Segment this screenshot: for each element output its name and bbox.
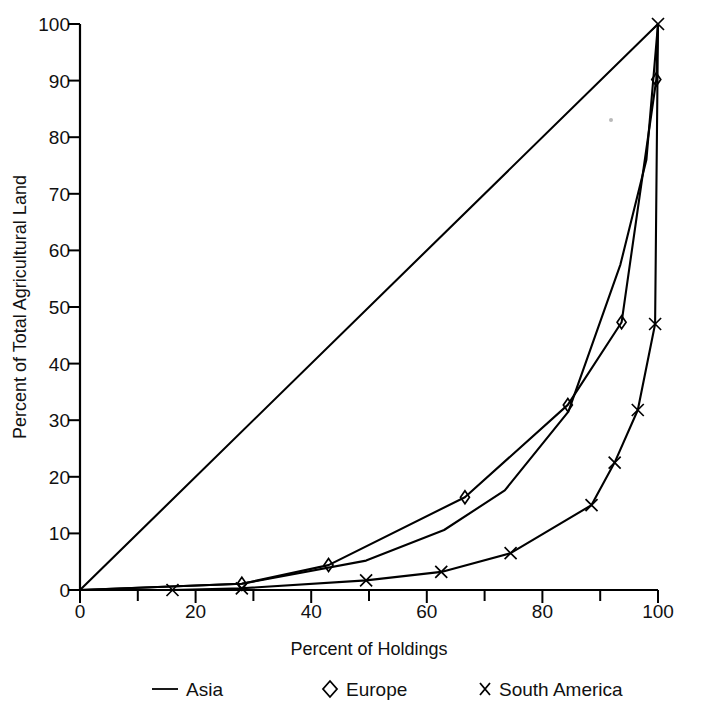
y-tick-label: 80 — [49, 127, 70, 148]
y-tick-label: 70 — [49, 184, 70, 205]
legend-label-south-america: South America — [499, 679, 623, 700]
x-axis-tick-labels: 020406080100 — [75, 601, 674, 622]
y-tick-label: 30 — [49, 410, 70, 431]
legend-item-south-america[interactable]: South America — [480, 679, 623, 700]
x-axis-title: Percent of Holdings — [290, 639, 447, 659]
data-series-layer — [80, 24, 658, 590]
legend-label-europe: Europe — [346, 679, 407, 700]
chart-legend: Asia Europe South America — [152, 679, 623, 700]
data-marker-layer — [166, 18, 664, 596]
legend-item-asia[interactable]: Asia — [152, 679, 223, 700]
x-tick-label: 100 — [642, 601, 674, 622]
y-axis-tick-labels: 0102030405060708090100 — [38, 14, 70, 601]
y-axis-title: Percent of Total Agricultural Land — [10, 175, 30, 439]
x-icon — [480, 683, 490, 695]
y-tick-label: 20 — [49, 467, 70, 488]
x-tick-label: 20 — [185, 601, 206, 622]
y-tick-label: 60 — [49, 240, 70, 261]
chart-page: 0102030405060708090100 020406080100 Perc… — [0, 0, 701, 706]
x-tick-label: 40 — [301, 601, 322, 622]
diamond-icon — [323, 681, 337, 697]
lorenz-curve-chart: 0102030405060708090100 020406080100 Perc… — [0, 0, 701, 706]
marker-x — [609, 457, 621, 469]
y-tick-label: 90 — [49, 71, 70, 92]
x-tick-label: 0 — [75, 601, 86, 622]
series-line-equality-line — [80, 24, 658, 590]
y-tick-label: 100 — [38, 14, 70, 35]
x-tick-label: 60 — [416, 601, 437, 622]
legend-label-asia: Asia — [186, 679, 223, 700]
x-tick-label: 80 — [532, 601, 553, 622]
y-tick-label: 40 — [49, 354, 70, 375]
y-tick-label: 10 — [49, 523, 70, 544]
scan-speck — [609, 118, 613, 122]
marker-x — [505, 547, 517, 559]
y-tick-label: 50 — [49, 297, 70, 318]
legend-item-europe[interactable]: Europe — [323, 679, 407, 700]
marker-x — [586, 499, 598, 511]
